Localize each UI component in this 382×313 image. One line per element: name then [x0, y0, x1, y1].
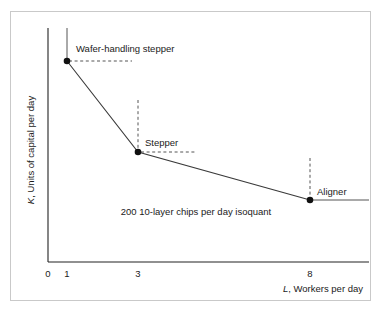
x-tick-1: 1 [64, 268, 69, 279]
x-axis-title-rest: , Workers per day [288, 283, 363, 294]
x-axis-title: L, Workers per day [283, 283, 363, 294]
data-point-aligner [307, 197, 314, 204]
label-wafer-handling-stepper: Wafer-handling stepper [76, 43, 174, 54]
y-axis-title: K, Units of capital per day [25, 96, 36, 205]
x-tick-0: 0 [45, 268, 50, 279]
x-tick-8: 8 [307, 268, 312, 279]
isoquant-figure: Wafer-handling stepper Stepper Aligner 2… [0, 0, 382, 313]
isoquant-plot: Wafer-handling stepper Stepper Aligner 2… [0, 0, 382, 313]
data-point-stepper [135, 149, 142, 156]
y-axis-title-rest: , Units of capital per day [25, 96, 36, 198]
label-aligner: Aligner [317, 186, 347, 197]
isoquant-curve [67, 61, 310, 200]
data-point-wafer-handling-stepper [64, 58, 71, 65]
isoquant-caption: 200 10-layer chips per day isoquant [121, 206, 272, 217]
x-tick-3: 3 [135, 268, 140, 279]
label-stepper: Stepper [145, 137, 178, 148]
